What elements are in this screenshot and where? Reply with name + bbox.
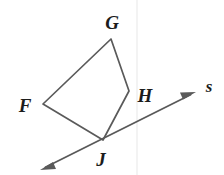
- line-s: [40, 92, 196, 170]
- vertex-label-h: H: [138, 86, 153, 105]
- line-s-segment: [45, 95, 190, 168]
- vertex-label-j: J: [96, 150, 106, 169]
- line-label-s: s: [206, 78, 213, 95]
- vertex-label-g: G: [105, 13, 119, 32]
- geometry-figure: F G H J s: [0, 0, 224, 175]
- vertex-label-f: F: [19, 96, 32, 115]
- quadrilateral-fghj: [43, 39, 129, 140]
